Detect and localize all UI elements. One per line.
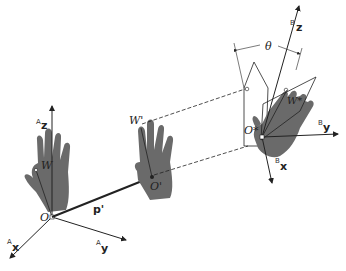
axis-a-z-label: z	[41, 119, 47, 132]
axis-b-y-label: y	[323, 121, 330, 134]
origin-o-star-label: O*	[244, 124, 259, 137]
point-w-label: W	[41, 159, 54, 172]
axis-a-y	[52, 217, 126, 240]
point-w	[34, 168, 37, 171]
dashed-line-w	[142, 88, 248, 124]
origin-o-label: O	[40, 211, 49, 224]
axis-b-x-label: x	[280, 160, 287, 173]
axis-b-z-prefix: B	[290, 19, 295, 27]
point-w-prime-label: W'	[129, 114, 143, 127]
vector-p-prime-label: p'	[93, 203, 104, 216]
origin-o-prime-label: O'	[150, 180, 162, 193]
origin-o-star-marker	[260, 135, 264, 139]
axis-a-y-label: y	[101, 242, 108, 255]
axis-b-z-label: z	[296, 21, 302, 34]
axis-a-x-label: x	[12, 241, 19, 254]
hand-transformation-diagram: A z A x A y W O p' W' O' B z B y B x W* …	[0, 0, 346, 271]
angle-theta-label: θ	[265, 40, 272, 53]
origin-o-prime-marker	[150, 175, 154, 179]
point-w-star-label: W*	[287, 95, 302, 106]
